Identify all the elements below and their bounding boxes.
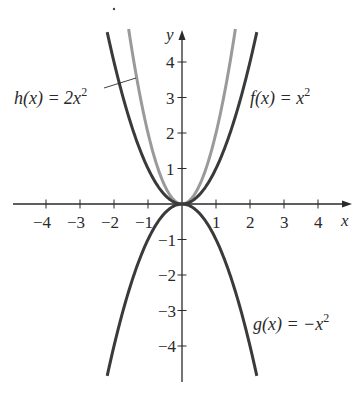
y-axis [179,30,186,382]
y-tick-label: −2 [158,266,176,285]
y-tick-label: −3 [158,302,176,321]
y-tick-label: 2 [166,124,175,143]
x-tick-label: 1 [212,213,221,232]
h-label: h(x) = 2x2 [14,85,87,109]
x-tick-label: −4 [33,213,52,232]
y-axis-label: y [164,25,174,44]
y-tick-label: 4 [166,53,175,72]
stray-dot [113,8,115,10]
x-axis-arrow-icon [342,201,352,208]
y-tick-label: −1 [158,231,176,250]
parabola-chart: −4−3−2−11234 −4−3−2−11234 x y h(x) = 2x2… [0,0,362,395]
x-tick-label: −3 [67,213,85,232]
y-axis-arrow-icon [179,30,186,40]
x-tick-label: −1 [135,213,153,232]
y-tick-label: −4 [158,337,177,356]
x-axis-label: x [340,211,349,230]
y-tick-label: 3 [166,89,175,108]
f-label: f(x) = x2 [250,85,310,109]
x-tick-label: 4 [314,213,323,232]
x-tick-label: 2 [246,213,255,232]
x-tick-label: 3 [280,213,289,232]
y-tick-label: 1 [166,160,175,179]
x-tick-label: −2 [101,213,119,232]
g-label: g(x) = −x2 [253,311,329,335]
